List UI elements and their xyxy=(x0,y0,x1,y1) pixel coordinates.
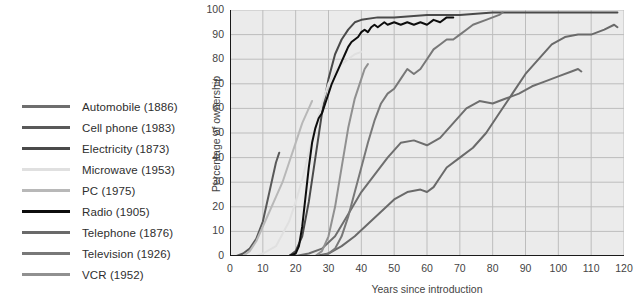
legend-label: Cell phone (1983) xyxy=(82,122,175,134)
legend-swatch xyxy=(22,189,70,192)
legend-label: Electricity (1873) xyxy=(82,143,169,155)
series-line xyxy=(230,101,312,256)
x-tick-label: 80 xyxy=(480,262,506,274)
series-line xyxy=(230,64,368,256)
legend-swatch xyxy=(22,273,70,276)
legend-item[interactable]: Automobile (1886) xyxy=(22,96,197,117)
legend-label: Telephone (1876) xyxy=(82,227,173,239)
x-tick-label: 110 xyxy=(578,262,604,274)
legend-swatch xyxy=(22,231,70,234)
series-lines xyxy=(230,12,617,256)
x-tick-label: 90 xyxy=(513,262,539,274)
plot-area xyxy=(230,10,624,256)
legend-item[interactable]: Cell phone (1983) xyxy=(22,117,197,138)
legend-label: Radio (1905) xyxy=(82,206,150,218)
chart-svg xyxy=(230,10,624,256)
legend-item[interactable]: PC (1975) xyxy=(22,180,197,201)
x-tick-label: 20 xyxy=(283,262,309,274)
y-axis-title-wrap: Percentage of ownership xyxy=(198,40,212,230)
legend-label: VCR (1952) xyxy=(82,269,144,281)
legend-label: Microwave (1953) xyxy=(82,164,175,176)
x-tick-label: 50 xyxy=(381,262,407,274)
legend-item[interactable]: Radio (1905) xyxy=(22,201,197,222)
y-axis-title: Percentage of ownership xyxy=(210,64,222,204)
x-tick-label: 30 xyxy=(316,262,342,274)
legend-item[interactable]: Microwave (1953) xyxy=(22,159,197,180)
legend-item[interactable]: Telephone (1876) xyxy=(22,222,197,243)
chart-page: Automobile (1886)Cell phone (1983)Electr… xyxy=(0,0,635,307)
chart-legend: Automobile (1886)Cell phone (1983)Electr… xyxy=(22,96,197,285)
x-tick-label: 10 xyxy=(250,262,276,274)
legend-item[interactable]: Television (1926) xyxy=(22,243,197,264)
legend-item[interactable]: VCR (1952) xyxy=(22,264,197,285)
x-axis-title: Years since introduction xyxy=(230,283,624,295)
legend-swatch xyxy=(22,168,70,171)
x-tick-label: 70 xyxy=(447,262,473,274)
series-line xyxy=(230,12,617,256)
y-tick-label: 0 xyxy=(198,249,224,261)
series-line xyxy=(230,69,581,256)
legend-swatch xyxy=(22,105,70,108)
legend-swatch xyxy=(22,210,70,213)
legend-label: Automobile (1886) xyxy=(82,101,178,113)
legend-swatch xyxy=(22,252,70,255)
y-tick-label: 100 xyxy=(198,3,224,15)
x-tick-label: 0 xyxy=(217,262,243,274)
legend-label: PC (1975) xyxy=(82,185,135,197)
x-tick-label: 40 xyxy=(348,262,374,274)
legend-swatch xyxy=(22,147,70,150)
x-tick-label: 120 xyxy=(611,262,635,274)
series-line xyxy=(230,12,503,256)
legend-item[interactable]: Electricity (1873) xyxy=(22,138,197,159)
y-tick-label: 90 xyxy=(198,28,224,40)
x-tick-label: 60 xyxy=(414,262,440,274)
legend-swatch xyxy=(22,126,70,129)
x-tick-label: 100 xyxy=(545,262,571,274)
legend-label: Television (1926) xyxy=(82,248,171,260)
